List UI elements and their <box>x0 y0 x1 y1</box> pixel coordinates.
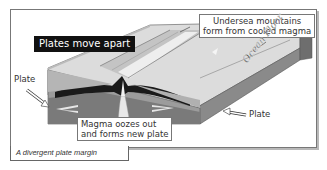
label-magma-line2: and forms new plate <box>81 129 168 139</box>
label-plate-right: Plate <box>249 109 270 119</box>
label-magma-oozes: Magma oozes out and forms new plate <box>77 117 172 141</box>
label-undersea-line1: Undersea mountains <box>203 16 311 26</box>
label-magma-line1: Magma oozes out <box>81 119 168 129</box>
title-plates-move-apart: Plates move apart <box>34 36 135 52</box>
figure-caption: A divergent plate margin <box>10 146 129 161</box>
label-plate-left: Plate <box>14 74 35 84</box>
